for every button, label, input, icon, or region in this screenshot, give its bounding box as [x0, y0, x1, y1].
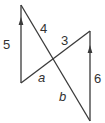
transversal-top-left-to-bottom-right [21, 5, 90, 121]
label-4: 4 [40, 21, 47, 36]
label-a: a [38, 70, 45, 85]
left-arrow-icon [19, 17, 24, 25]
transversal-bottom-left-to-top-right [21, 31, 90, 83]
label-3: 3 [61, 33, 68, 48]
right-arrow-icon [88, 45, 93, 53]
geometry-diagram: 5 4 3 6 a b [0, 0, 105, 123]
label-5: 5 [3, 37, 10, 52]
label-b: b [59, 89, 66, 104]
label-6: 6 [94, 71, 101, 86]
